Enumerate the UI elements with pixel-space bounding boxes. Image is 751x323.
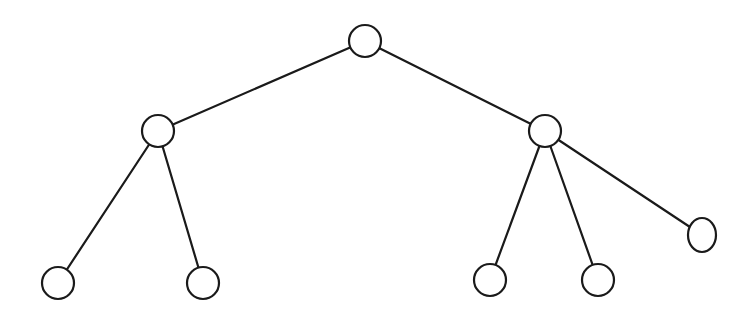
node-right-leaf-1 [474,264,506,296]
edge-root-to-left [158,41,365,131]
edge-left-to-left-leaf-2 [158,131,203,283]
node-right-leaf-3 [688,218,716,252]
tree-diagram [0,0,751,323]
node-right [529,115,561,147]
node-left [142,115,174,147]
edge-right-to-right-leaf-2 [545,131,598,280]
node-right-leaf-2 [582,264,614,296]
edge-right-to-right-leaf-1 [490,131,545,280]
node-left-leaf-1 [42,267,74,299]
tree-nodes [42,25,716,299]
edge-right-to-right-leaf-3 [545,131,702,235]
edge-root-to-right [365,41,545,131]
edge-left-to-left-leaf-1 [58,131,158,283]
node-root [349,25,381,57]
node-left-leaf-2 [187,267,219,299]
tree-edges [58,41,702,283]
